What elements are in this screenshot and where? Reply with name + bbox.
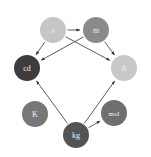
unit-dependency-graph: smcdAKkgmol [0,0,151,157]
node-shape-kg [63,122,89,148]
graph-node-m: m [83,17,109,43]
graph-edge-kg-to-mol [89,121,101,128]
graph-edge-m-to-A [105,42,115,55]
graph-nodes: smcdAKkgmol [14,17,137,148]
node-shape-cd [14,55,40,81]
graph-node-A: A [111,55,137,81]
figure-caption [0,146,151,157]
node-shape-A [111,55,137,81]
node-shape-mol [101,100,127,126]
graph-node-K: K [22,101,48,127]
graph-node-s: s [40,17,66,43]
graph-node-cd: cd [14,55,40,81]
node-shape-K [22,101,48,127]
graph-node-mol: mol [101,100,127,126]
graph-node-kg: kg [63,122,89,148]
unit-dependency-figure: smcdAKkgmol [0,0,151,157]
node-shape-s [40,17,66,43]
graph-edge-s-to-cd [36,42,45,55]
node-shape-m [83,17,109,43]
